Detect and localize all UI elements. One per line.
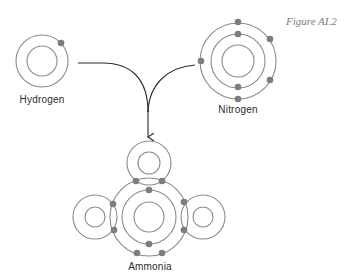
lone-pair-electron [159,250,166,257]
nitrogen-electron [235,96,242,103]
figure-caption: Figure AI.2 [286,15,337,27]
ammonia-hydrogen-left-nucleus [85,207,105,227]
hydrogen-electron [58,40,65,47]
diagram-canvas: Hydrogen Nitrogen Ammonia Figure AI.2 [0,0,352,279]
shared-electron-right [181,199,188,206]
ammonia-nitrogen-nucleus [134,202,164,232]
ammonia-molecule [73,141,225,256]
nitrogen-electron [198,58,205,65]
hydrogen-connector-curve [78,63,148,112]
nitrogen-inner-shell [211,34,265,88]
nitrogen-electron [267,36,274,43]
hydrogen-nucleus [27,46,57,76]
ammonia-hydrogen-top-nucleus [138,152,160,174]
hydrogen-atom [16,35,68,87]
shared-electron-left [110,201,117,208]
ammonia-inner-electron [146,187,153,194]
ammonia-inner-electron [146,241,153,248]
shared-electron-right [181,227,188,234]
ammonia-hydrogen-right-nucleus [193,207,213,227]
nitrogen-label: Nitrogen [218,104,257,115]
ammonia-label: Ammonia [128,261,172,272]
nitrogen-electron [235,31,242,38]
nitrogen-nucleus [222,45,254,77]
hydrogen-label: Hydrogen [20,94,65,105]
shared-electron-top [159,178,166,185]
nitrogen-electron [267,77,274,84]
nitrogen-connector-curve [148,65,195,112]
reaction-connector [78,63,195,137]
nitrogen-atom [198,19,276,103]
lone-pair-electron [134,250,141,257]
diagram-svg [0,0,352,279]
shared-electron-top [133,178,140,185]
nitrogen-electron [235,84,242,91]
shared-electron-left [111,227,118,234]
ammonia-nitrogen-inner-shell [122,190,176,244]
nitrogen-electron [235,19,242,26]
